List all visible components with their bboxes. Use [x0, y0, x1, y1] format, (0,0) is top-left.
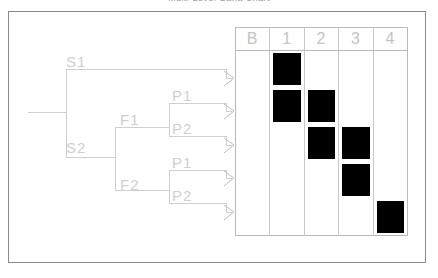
matrix-column-2 [305, 51, 339, 236]
matrix-header-row: B 1 2 3 4 [236, 28, 407, 51]
matrix-column-b [236, 51, 270, 236]
matrix-header-cell: 3 [339, 28, 373, 50]
matrix-column-4 [374, 51, 407, 236]
matrix-block [273, 90, 300, 122]
matrix-block [308, 90, 335, 122]
matrix-block [342, 127, 369, 159]
matrix-block [308, 127, 335, 159]
matrix-column-3 [339, 51, 373, 236]
node-label-p1-f2: P1 [172, 155, 192, 170]
matrix-header-cell: 1 [270, 28, 304, 50]
node-label-s1: S1 [66, 54, 86, 69]
node-label-p1-f1: P1 [172, 88, 192, 103]
node-label-f1: F1 [120, 112, 140, 127]
matrix-block [273, 53, 300, 85]
matrix-header-cell: 2 [305, 28, 339, 50]
matrix-column-1 [270, 51, 304, 236]
node-label-s2: S2 [66, 140, 86, 155]
matrix-block [342, 164, 369, 196]
matrix-body [236, 51, 407, 236]
schedule-matrix: B 1 2 3 4 [235, 27, 408, 236]
node-label-p2-f1: P2 [172, 121, 192, 136]
node-label-f2: F2 [120, 177, 140, 192]
node-label-p2-f2: P2 [172, 188, 192, 203]
matrix-header-cell: 4 [374, 28, 407, 50]
matrix-block [377, 201, 404, 233]
gantt-chart-figure: Multi-Level Gantt Chart [0, 0, 438, 278]
matrix-header-cell: B [236, 28, 270, 50]
